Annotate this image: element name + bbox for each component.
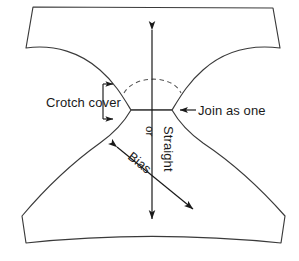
label-straight: Straight [161, 126, 176, 172]
pattern-illustration: Crotch cover Join as one Straight or Bia… [0, 0, 299, 261]
label-join-as-one: Join as one [198, 103, 266, 118]
label-or: or [144, 126, 156, 136]
label-crotch-cover: Crotch cover [46, 95, 121, 110]
diagram-canvas: Crotch cover Join as one Straight or Bia… [0, 0, 299, 261]
